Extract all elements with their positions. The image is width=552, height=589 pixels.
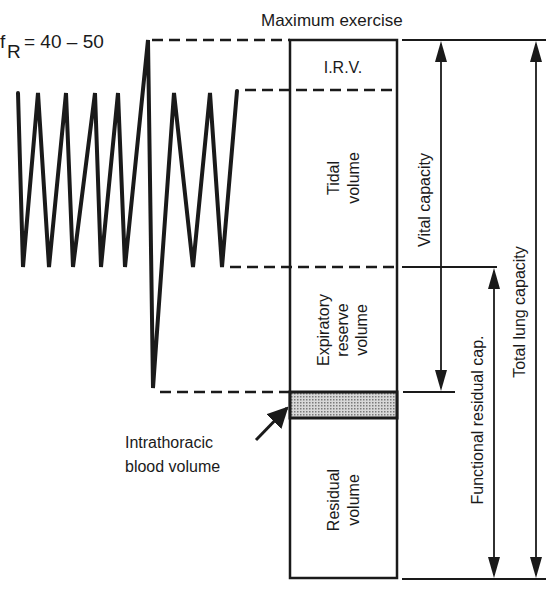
frc-arrow bbox=[488, 268, 500, 578]
lung-volumes-diagram: f R = 40 – 50 Maximum exercise I.R.V. Ti… bbox=[0, 0, 552, 589]
diagram-canvas: f R = 40 – 50 Maximum exercise I.R.V. Ti… bbox=[0, 0, 552, 589]
erv-line2: reserve bbox=[334, 303, 351, 356]
tidal-line2: volume bbox=[345, 152, 362, 204]
irv-label: I.R.V. bbox=[324, 59, 363, 76]
vital-capacity-arrow bbox=[435, 41, 447, 391]
respiratory-rate-label: f R = 40 – 50 bbox=[0, 31, 104, 62]
spirogram-trace bbox=[18, 40, 237, 388]
tidal-volume-label: Tidal volume bbox=[325, 152, 362, 204]
erv-line1: Expiratory bbox=[315, 294, 332, 366]
fr-subscript: R bbox=[7, 41, 21, 62]
blood-volume-label-line1: Intrathoracic bbox=[125, 434, 213, 451]
frc-label: Functional residual cap. bbox=[469, 336, 486, 505]
condition-title: Maximum exercise bbox=[261, 11, 403, 30]
residual-volume-label: Residual volume bbox=[325, 469, 362, 531]
blood-volume-arrow bbox=[256, 408, 287, 440]
fr-value: = 40 – 50 bbox=[24, 31, 104, 52]
tidal-line1: Tidal bbox=[325, 161, 342, 195]
erv-label: Expiratory reserve volume bbox=[315, 294, 370, 366]
fr-symbol: f bbox=[0, 31, 6, 52]
tlc-label: Total lung capacity bbox=[511, 246, 528, 378]
erv-line3: volume bbox=[353, 304, 370, 356]
vital-capacity-label: Vital capacity bbox=[416, 153, 433, 247]
residual-line2: volume bbox=[345, 474, 362, 526]
blood-volume-label-line2: blood volume bbox=[125, 458, 220, 475]
tlc-arrow bbox=[530, 41, 542, 578]
blood-volume-band bbox=[290, 392, 397, 418]
residual-line1: Residual bbox=[325, 469, 342, 531]
